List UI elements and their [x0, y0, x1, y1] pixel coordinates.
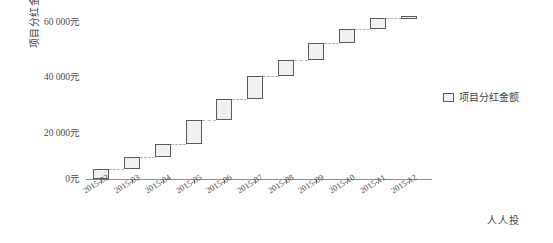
bar-2015-05: [186, 120, 202, 144]
bar-2015-12: [401, 16, 417, 19]
connector-2015-07: [263, 76, 278, 77]
connector-2015-06: [232, 99, 247, 100]
connector-2015-09: [324, 43, 339, 44]
bar-2015-11: [370, 18, 386, 28]
connector-2015-02: [109, 169, 124, 170]
connector-2015-08: [294, 60, 309, 61]
legend-label: 项目分红金额: [459, 92, 519, 103]
y-axis-tick-labels: 60 000元 40 000元 20 000元 0元: [18, 0, 80, 243]
bar-2015-03: [124, 157, 140, 169]
bar-2015-06: [216, 99, 232, 120]
y-tick-label-60000: 60 000元: [18, 17, 80, 27]
bar-2015-07: [247, 76, 263, 99]
connector-2015-11: [386, 18, 401, 19]
plot-area: [86, 12, 424, 179]
waterfall-chart: 项目分红金额趋势 60 000元 40 000元 20 000元 0元 2015…: [0, 0, 553, 243]
bar-2015-09: [308, 43, 324, 60]
connector-2015-10: [355, 29, 370, 30]
connector-2015-04: [171, 144, 186, 145]
bar-2015-04: [155, 144, 171, 157]
connector-2015-05: [202, 120, 217, 121]
source-watermark: 人人投: [487, 215, 520, 227]
y-tick-label-0: 0元: [18, 174, 80, 184]
y-tick-label-20000: 20 000元: [18, 128, 80, 138]
legend-swatch-icon: [443, 93, 454, 102]
bar-2015-10: [339, 29, 355, 43]
legend: 项目分红金额: [443, 92, 519, 103]
connector-2015-03: [140, 157, 155, 158]
bar-2015-08: [278, 60, 294, 77]
y-tick-label-40000: 40 000元: [18, 72, 80, 82]
